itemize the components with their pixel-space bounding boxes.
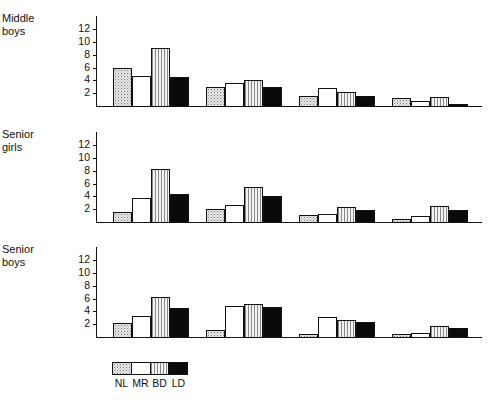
bar-bd <box>151 297 170 337</box>
legend-swatch-ld <box>169 363 187 374</box>
y-tick-label: 10 <box>68 36 90 47</box>
panel-title: Senior boys <box>2 243 34 269</box>
bar-mr <box>411 101 430 106</box>
bar-ld <box>356 210 375 222</box>
y-tick-label: 8 <box>68 49 90 60</box>
bar-ld <box>170 194 189 222</box>
panel-title: Middle boys <box>2 12 34 38</box>
bar-nl <box>299 96 318 106</box>
y-tick-label: 2 <box>68 318 90 329</box>
bar-mr <box>411 333 430 337</box>
bar-bd <box>151 169 170 222</box>
y-tick-label: 12 <box>68 23 90 34</box>
bar-nl <box>206 209 225 222</box>
bar-ld <box>170 308 189 337</box>
bar-bd <box>244 80 263 106</box>
y-tick-label: 4 <box>68 74 90 85</box>
bar-ld <box>356 96 375 106</box>
bar-bd <box>430 206 449 222</box>
bar-mr <box>318 88 337 106</box>
y-tick <box>93 171 97 172</box>
bar-bd <box>337 207 356 222</box>
x-axis <box>96 222 482 223</box>
bar-nl <box>113 68 132 106</box>
y-tick-label: 4 <box>68 190 90 201</box>
y-tick <box>93 184 97 185</box>
bar-nl <box>392 334 411 337</box>
bar-nl <box>113 212 132 222</box>
bar-mr <box>225 83 244 106</box>
bar-bd <box>244 304 263 337</box>
y-tick-label: 2 <box>68 87 90 98</box>
legend-swatch-bd <box>151 363 170 374</box>
bar-ld <box>170 77 189 106</box>
y-tick <box>93 196 97 197</box>
y-tick-label: 6 <box>68 178 90 189</box>
bar-bd <box>337 320 356 337</box>
bar-bd <box>430 97 449 106</box>
y-tick-label: 12 <box>68 139 90 150</box>
y-tick-label: 10 <box>68 267 90 278</box>
y-tick <box>93 145 97 146</box>
bar-mr <box>318 214 337 222</box>
bar-nl <box>206 87 225 106</box>
y-tick <box>93 260 97 261</box>
bar-nl <box>206 330 225 337</box>
legend-label-mr: MR <box>131 377 150 389</box>
y-tick <box>93 273 97 274</box>
bar-mr <box>225 205 244 222</box>
legend-swatch-nl <box>113 363 132 374</box>
y-tick-label: 2 <box>68 203 90 214</box>
y-tick <box>93 80 97 81</box>
bar-nl <box>299 334 318 337</box>
bar-bd <box>244 187 263 222</box>
bar-ld <box>263 307 282 337</box>
bar-mr <box>318 317 337 337</box>
y-tick <box>93 324 97 325</box>
y-tick <box>93 42 97 43</box>
bar-ld <box>263 196 282 222</box>
bar-mr <box>225 306 244 337</box>
y-tick <box>93 299 97 300</box>
bar-mr <box>132 316 151 337</box>
y-tick-label: 6 <box>68 62 90 73</box>
bar-bd <box>337 92 356 106</box>
bar-mr <box>411 216 430 222</box>
bar-bd <box>151 48 170 106</box>
y-tick <box>93 311 97 312</box>
y-tick-label: 12 <box>68 254 90 265</box>
legend-labels: NL MR BD LD <box>112 377 192 389</box>
bar-nl <box>113 323 132 337</box>
y-tick <box>93 158 97 159</box>
y-tick <box>93 209 97 210</box>
bar-ld <box>449 104 468 106</box>
y-tick <box>93 55 97 56</box>
y-tick-label: 4 <box>68 305 90 316</box>
bar-mr <box>132 198 151 222</box>
bar-nl <box>299 215 318 222</box>
y-tick <box>93 93 97 94</box>
y-tick <box>93 29 97 30</box>
legend-swatch-mr <box>132 363 151 374</box>
bar-bd <box>430 326 449 337</box>
bar-ld <box>263 87 282 106</box>
bar-ld <box>356 322 375 337</box>
bar-nl <box>392 98 411 106</box>
legend-label-ld: LD <box>169 377 188 389</box>
y-tick <box>93 286 97 287</box>
panel-title: Senior girls <box>2 128 34 154</box>
y-tick-label: 6 <box>68 293 90 304</box>
x-axis <box>96 337 482 338</box>
bar-mr <box>132 76 151 106</box>
legend-swatches <box>112 362 188 375</box>
bar-nl <box>392 219 411 222</box>
x-axis <box>96 106 482 107</box>
legend-label-bd: BD <box>150 377 169 389</box>
y-tick <box>93 68 97 69</box>
y-tick-label: 8 <box>68 165 90 176</box>
y-tick-label: 8 <box>68 280 90 291</box>
bar-ld <box>449 210 468 222</box>
y-tick-label: 10 <box>68 152 90 163</box>
bar-ld <box>449 328 468 337</box>
legend-label-nl: NL <box>112 377 131 389</box>
